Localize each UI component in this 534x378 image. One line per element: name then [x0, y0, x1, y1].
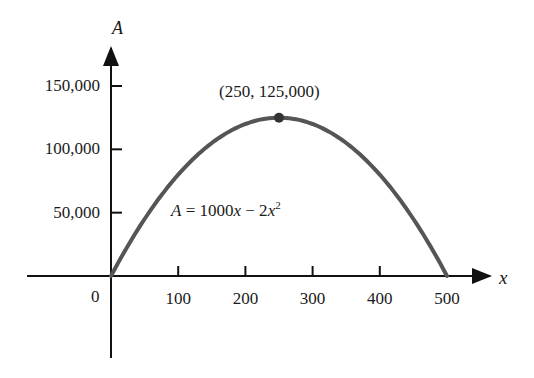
chart-canvas — [0, 0, 534, 378]
formula-minus: − 2 — [241, 201, 268, 220]
y-ticks — [111, 86, 122, 213]
parabola-curve — [111, 118, 447, 276]
x-tick-label: 300 — [288, 290, 338, 307]
y-axis-label: A — [112, 19, 123, 37]
origin-label: 0 — [91, 288, 100, 305]
formula-mid: = 1000 — [181, 201, 233, 220]
formula-x1: x — [233, 201, 241, 220]
vertex-annotation: (250, 125,000) — [219, 83, 320, 100]
vertex-point — [274, 113, 284, 123]
y-tick-label: 150,000 — [0, 77, 100, 94]
x-tick-label: 400 — [355, 290, 405, 307]
y-tick-label: 100,000 — [0, 140, 100, 157]
formula-exponent: 2 — [275, 199, 281, 211]
equation-label: A = 1000x − 2x2 — [171, 200, 281, 219]
x-tick-label: 100 — [153, 290, 203, 307]
x-tick-label: 500 — [422, 290, 472, 307]
x-tick-label: 200 — [220, 290, 270, 307]
x-ticks — [178, 266, 380, 276]
x-axis-label: x — [499, 268, 507, 287]
formula-lhs: A — [171, 201, 181, 220]
y-tick-label: 50,000 — [0, 204, 100, 221]
